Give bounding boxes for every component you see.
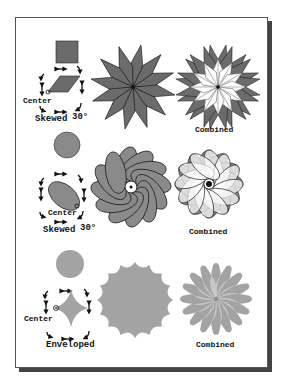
skewed-square — [48, 76, 80, 92]
label-angle: 30° — [80, 223, 96, 233]
label-combined: Combined — [196, 340, 234, 349]
label-center: Center — [48, 208, 77, 217]
label-angle: 30° — [72, 112, 88, 122]
label-enveloped: Enveloped — [46, 340, 95, 350]
combined-wavy-rosette — [180, 263, 252, 335]
label-skewed: Skewed — [43, 225, 75, 235]
enveloped-diamond — [54, 289, 88, 327]
label-skewed: Skewed — [35, 114, 67, 124]
label-combined: Combined — [195, 125, 233, 134]
combined-star — [176, 45, 260, 129]
rotated-wavy-star — [97, 262, 173, 338]
label-combined: Combined — [189, 227, 227, 236]
row-enveloped — [45, 250, 252, 339]
label-center: Center — [24, 314, 53, 323]
source-circle — [56, 250, 84, 278]
label-center: Center — [23, 96, 52, 105]
source-circle — [54, 132, 80, 158]
rotated-parallelogram-star — [91, 45, 175, 129]
figure-canvas — [0, 0, 284, 382]
rotated-ellipse-spiral — [88, 144, 174, 230]
source-square — [56, 41, 78, 63]
combined-rosette — [172, 147, 245, 220]
